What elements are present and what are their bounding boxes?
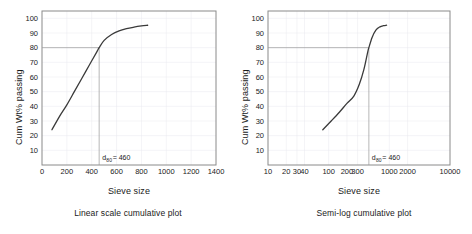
svg-text:40: 40 [30,102,38,111]
svg-text:100: 100 [322,167,335,176]
svg-text:10: 10 [30,146,38,155]
svg-text:= 460: = 460 [382,154,400,161]
svg-text:0: 0 [40,167,44,176]
svg-text:10000: 10000 [440,167,461,176]
semilog-chart-caption: Semi-log cumulative plot [256,208,472,218]
linear-x-axis-title: Sieve size [42,186,216,196]
svg-text:100: 100 [251,14,264,23]
semilog-x-tick-labels: 102030401002003001000200010000 [264,167,461,176]
semilog-plot-frame [268,11,450,165]
svg-text:80: 80 [376,157,382,163]
svg-text:1400: 1400 [208,167,225,176]
svg-text:10: 10 [264,167,272,176]
svg-text:90: 90 [30,29,38,38]
svg-text:40: 40 [256,102,264,111]
svg-text:300: 300 [351,167,364,176]
svg-text:70: 70 [256,58,264,67]
linear-x-tick-labels: 0200400600800100012001400 [40,167,224,176]
svg-text:100: 100 [25,14,38,23]
svg-text:90: 90 [256,29,264,38]
svg-text:20: 20 [30,131,38,140]
linear-y-axis-title: Cum Wt% passing [14,69,24,145]
svg-text:1000: 1000 [381,167,398,176]
svg-text:80: 80 [106,157,112,163]
linear-plot-frame [42,11,216,165]
figure-container: 0200400600800100012001400 10203040506070… [0,0,472,234]
svg-text:60: 60 [256,73,264,82]
linear-chart-caption: Linear scale cumulative plot [20,208,236,218]
semilog-x-axis-title: Sieve size [268,186,450,196]
linear-gridlines [42,11,216,165]
svg-text:80: 80 [256,43,264,52]
semilog-d80-annotation: d80 = 460 [372,154,400,163]
svg-text:1200: 1200 [183,167,200,176]
svg-text:30: 30 [256,117,264,126]
linear-cumulative-curve [52,25,148,130]
svg-text:50: 50 [30,87,38,96]
svg-text:1000: 1000 [158,167,175,176]
svg-text:40: 40 [300,167,308,176]
svg-text:800: 800 [135,167,148,176]
semilog-chart-svg: 102030401002003001000200010000 102030405… [236,0,472,200]
svg-text:10: 10 [256,146,264,155]
semilog-y-axis-title: Cum Wt% passing [240,69,250,145]
chart-panel-semilog: 102030401002003001000200010000 102030405… [236,0,472,234]
svg-text:60: 60 [30,73,38,82]
semilog-cumulative-curve [323,25,387,130]
svg-text:400: 400 [85,167,98,176]
svg-text:200: 200 [61,167,74,176]
svg-text:= 460: = 460 [113,154,131,161]
svg-text:70: 70 [30,58,38,67]
linear-y-tick-labels: 102030405060708090100 [25,14,38,155]
svg-text:2000: 2000 [399,167,416,176]
svg-text:20: 20 [256,131,264,140]
chart-panel-linear: 0200400600800100012001400 10203040506070… [0,0,236,234]
semilog-gridlines [268,11,450,165]
svg-text:600: 600 [110,167,123,176]
linear-chart-svg: 0200400600800100012001400 10203040506070… [0,0,236,200]
svg-text:30: 30 [30,117,38,126]
semilog-y-tick-labels: 102030405060708090100 [251,14,264,155]
svg-text:80: 80 [30,43,38,52]
svg-text:20: 20 [282,167,290,176]
svg-text:50: 50 [256,87,264,96]
